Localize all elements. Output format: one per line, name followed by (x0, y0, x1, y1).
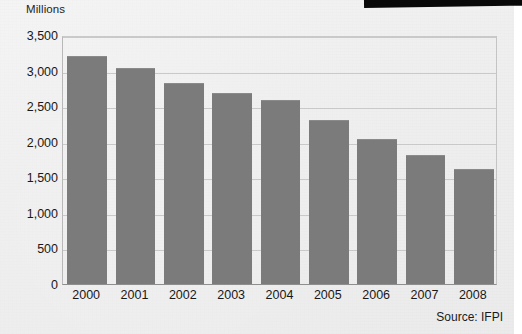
bar (164, 83, 204, 284)
bar-slot (256, 37, 304, 284)
x-tick-label: 2006 (352, 288, 400, 302)
y-tick-label: 500 (2, 242, 58, 256)
bar (406, 155, 446, 284)
y-tick-label: 3,500 (2, 29, 58, 43)
y-tick-label: 3,000 (2, 65, 58, 79)
x-tick-label: 2004 (255, 288, 303, 302)
bar (309, 120, 349, 284)
y-tick-label: 2,500 (2, 100, 58, 114)
y-tick-label: 1,500 (2, 171, 58, 185)
bar-slot (353, 37, 401, 284)
bar (261, 100, 301, 284)
y-tick-label: 0 (2, 278, 58, 292)
x-tick-label: 2007 (400, 288, 448, 302)
x-tick-label: 2008 (449, 288, 497, 302)
bar-slot (111, 37, 159, 284)
bar-slot (305, 37, 353, 284)
bar-slot (401, 37, 449, 284)
bar (116, 68, 156, 284)
y-tick-label: 1,000 (2, 207, 58, 221)
x-tick-label: 2002 (159, 288, 207, 302)
bar-series (63, 37, 496, 284)
x-tick-label: 2000 (62, 288, 110, 302)
y-axis-tick-labels: 05001,0001,5002,0002,5003,0003,500 (0, 0, 58, 334)
plot-area (62, 36, 497, 285)
bar-slot (208, 37, 256, 284)
bar-slot (63, 37, 111, 284)
bar (67, 56, 107, 284)
bar-slot (160, 37, 208, 284)
bar (357, 139, 397, 284)
x-tick-label: 2005 (304, 288, 352, 302)
y-tick-label: 2,000 (2, 136, 58, 150)
x-tick-label: 2003 (207, 288, 255, 302)
x-axis-tick-labels: 200020012002200320042005200620072008 (62, 288, 497, 308)
bar (454, 169, 494, 284)
scan-artifact-bar (364, 0, 522, 8)
bar-slot (450, 37, 498, 284)
source-note: Source: IFPI (436, 310, 503, 324)
bar (212, 93, 252, 284)
x-tick-label: 2001 (110, 288, 158, 302)
